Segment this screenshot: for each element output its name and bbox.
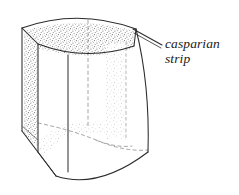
figure-root: casparian strip bbox=[0, 0, 239, 195]
cell-diagram-svg: casparian strip bbox=[0, 0, 239, 195]
casparian-strip-label-line1: casparian bbox=[165, 36, 220, 51]
casparian-strip-label-line2: strip bbox=[165, 51, 190, 66]
